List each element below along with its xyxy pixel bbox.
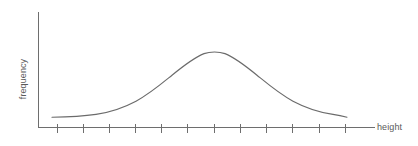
distribution-plot <box>0 0 418 146</box>
normal-distribution-curve <box>52 52 347 117</box>
chart-container: frequency height <box>0 0 418 146</box>
y-axis-label: frequency <box>17 47 29 111</box>
x-axis-label: height <box>377 122 402 132</box>
